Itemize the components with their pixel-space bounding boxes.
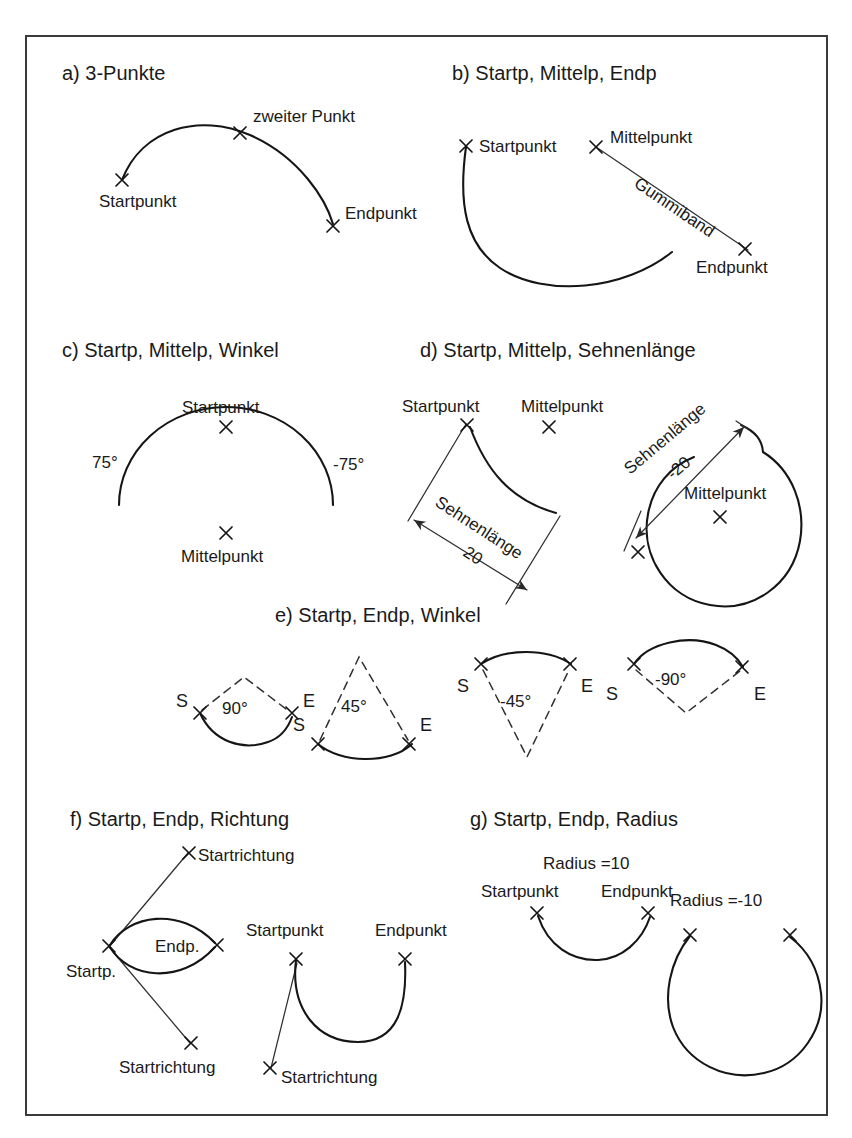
panel-e-start-marker-neg90 (628, 658, 640, 670)
panel-b-center-marker (590, 141, 602, 153)
panel-g-left-start-label: Startpunkt (481, 882, 559, 901)
panel-d-left-start-label: Startpunkt (402, 397, 480, 416)
panel-d-left-center-label: Mittelpunkt (521, 397, 603, 416)
panel-e-wedge-neg90 (636, 670, 740, 713)
panel-c-title: c) Startp, Mittelp, Winkel (62, 339, 279, 361)
panel-c-angle-negative-label: -75° (333, 455, 364, 474)
panel-e-item-neg45: S E -45° (457, 652, 593, 757)
panel-e-angle-label-90: 90° (222, 699, 248, 718)
panel-g-left-end-label: Endpunkt (601, 882, 673, 901)
panel-e-wedge-neg45 (483, 670, 569, 757)
panel-e-angle-label-neg45: -45° (500, 692, 531, 711)
panel-f-title: f) Startp, Endp, Richtung (70, 808, 289, 830)
panel-d-left-start-marker (461, 419, 473, 431)
panel-a-second-point-label: zweiter Punkt (253, 107, 355, 126)
panel-f-right-start-label: Startpunkt (246, 921, 324, 940)
panel-g-left-start-marker (531, 907, 543, 919)
panel-b: b) Startp, Mittelp, Endp Startpunkt Mitt… (452, 62, 768, 286)
panel-f-right: Startpunkt Endpunkt Startrichtung (246, 921, 447, 1087)
panel-e-end-marker-neg90 (736, 661, 748, 673)
panel-c-center-label: Mittelpunkt (181, 547, 263, 566)
panel-b-end-marker (739, 243, 751, 255)
panel-f-right-direction-marker (264, 1062, 276, 1074)
panel-b-end-label: Endpunkt (696, 258, 768, 277)
panel-e-item-neg90: S E -90° (606, 640, 766, 713)
panel-e-s-label-90: S (176, 691, 188, 711)
panel-g-title: g) Startp, Endp, Radius (470, 808, 678, 830)
panel-d-right-extension-b (624, 511, 641, 551)
panel-e-end-marker-45 (403, 738, 415, 750)
panel-e-e-label-45: E (420, 715, 432, 735)
panel-c-angle-positive-label: 75° (92, 453, 118, 472)
panel-e-arc-neg90 (634, 640, 743, 667)
panel-e-e-label-neg90: E (754, 684, 766, 704)
panel-e-title: e) Startp, Endp, Winkel (275, 604, 481, 626)
panel-e-e-label-neg45: E (581, 676, 593, 696)
panel-e-start-marker-90 (194, 707, 206, 719)
panel-f-left-end-label: Endp. (155, 937, 199, 956)
panel-f-left-end-marker (211, 939, 223, 951)
panel-f-left-direction-top-label: Startrichtung (198, 846, 294, 865)
panel-c-center-marker (220, 527, 232, 539)
panel-d-right-start-marker (632, 546, 644, 558)
panel-e-s-label-neg45: S (457, 676, 469, 696)
panel-g-right: Radius =-10 (668, 891, 821, 1075)
panel-d-right: Sehnenlänge -20 Mittelpunkt (620, 399, 801, 606)
panel-g-left: Radius =10 Startpunkt Endpunkt (481, 854, 673, 960)
panel-e-item-90: S E 90° (176, 677, 315, 745)
panel-f-left-direction-bottom-marker (185, 1037, 197, 1049)
panel-g-left-end-marker (642, 907, 654, 919)
panel-e-start-marker-neg45 (475, 658, 487, 670)
panel-d-left-center-marker (543, 421, 555, 433)
panel-e-e-label-90: E (303, 691, 315, 711)
panel-d-title: d) Startp, Mittelp, Sehnenlänge (420, 339, 696, 361)
panel-c-start-label: Startpunkt (182, 398, 260, 417)
panel-f-left-start-label: Startp. (66, 962, 116, 981)
panel-d-left: Startpunkt Mittelpunkt Sehnenlänge 20 (402, 397, 603, 604)
panel-e-arc-45 (318, 744, 412, 759)
panel-e-end-marker-neg45 (564, 658, 576, 670)
panel-f-right-direction-label: Startrichtung (281, 1068, 377, 1087)
panel-b-rubber-band-label: Gummiband (631, 174, 718, 242)
panel-f: f) Startp, Endp, Richtung Startrichtung … (66, 808, 447, 1087)
panel-e: e) Startp, Endp, Winkel S E 90° (176, 604, 766, 759)
panel-d-right-arc (647, 425, 802, 606)
panel-b-center-label: Mittelpunkt (610, 128, 692, 147)
panel-c: c) Startp, Mittelp, Winkel Startpunkt 75… (62, 339, 364, 566)
panel-g-right-radius-label: Radius =-10 (670, 891, 762, 910)
panel-b-start-label: Startpunkt (479, 137, 557, 156)
panel-d-right-extension-a (736, 421, 748, 429)
panel-e-s-label-45: S (293, 715, 305, 735)
panel-b-arc (463, 147, 672, 286)
panel-f-left-start-marker (103, 940, 115, 952)
panel-f-right-arc (295, 960, 405, 1042)
panel-f-left: Startrichtung Startp. Endp. Startrichtun… (66, 846, 294, 1077)
panel-e-angle-label-45: 45° (341, 697, 367, 716)
panel-g: g) Startp, Endp, Radius Radius =10 Start… (470, 808, 821, 1075)
panel-a: a) 3-Punkte zweiter Punkt Startpunkt End… (62, 62, 417, 232)
panel-a-start-label: Startpunkt (99, 192, 177, 211)
panel-d-right-center-label: Mittelpunkt (684, 484, 766, 503)
panel-d-left-chord-value: 20 (460, 542, 486, 568)
panel-a-end-label: Endpunkt (345, 204, 417, 223)
panel-g-left-arc (538, 916, 650, 960)
panel-d-right-center-marker (714, 511, 726, 523)
panel-d-left-arc (470, 427, 556, 513)
panel-b-title: b) Startp, Mittelp, Endp (452, 62, 657, 84)
panel-d-right-chord-value: -20 (663, 453, 694, 483)
panel-f-right-direction-line (271, 963, 297, 1068)
panel-e-arc-neg45 (481, 652, 571, 664)
panel-c-arc (119, 407, 333, 505)
panel-e-angle-label-neg90: -90° (655, 670, 686, 689)
panel-a-start-marker (116, 174, 128, 186)
panel-e-start-marker-45 (312, 738, 324, 750)
panel-g-right-arc (668, 936, 821, 1075)
arc-construction-figure: a) 3-Punkte zweiter Punkt Startpunkt End… (0, 0, 852, 1138)
panel-f-right-end-label: Endpunkt (375, 921, 447, 940)
panel-c-start-marker (220, 421, 232, 433)
panel-f-left-direction-bottom-label: Startrichtung (119, 1058, 215, 1077)
panel-e-s-label-neg90: S (606, 684, 618, 704)
panel-g-left-radius-label: Radius =10 (543, 854, 629, 873)
panel-f-left-direction-top-marker (183, 847, 195, 859)
panel-d: d) Startp, Mittelp, Sehnenlänge Startpun… (402, 339, 801, 606)
